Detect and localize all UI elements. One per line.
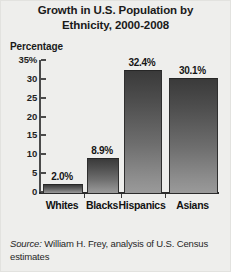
bar-value-label: 2.0% bbox=[31, 171, 93, 182]
plot-area: 05101520253035% 2.0%8.9%32.4%30.1% White… bbox=[1, 1, 231, 201]
y-tick-label: 30 bbox=[1, 73, 37, 84]
y-tick-mark bbox=[41, 97, 46, 99]
chart-figure: Growth in U.S. Population by Ethnicity, … bbox=[0, 0, 231, 272]
y-tick-mark bbox=[41, 78, 46, 80]
y-tick-label: 35% bbox=[1, 54, 37, 65]
bar-hispanics bbox=[124, 70, 162, 193]
y-tick-label: 20 bbox=[1, 111, 37, 122]
x-tick-mark bbox=[121, 194, 122, 198]
category-label: Asians bbox=[155, 199, 230, 211]
source-prefix: Source: bbox=[10, 238, 42, 249]
y-tick-label: 10 bbox=[1, 148, 37, 159]
y-tick-label: 25 bbox=[1, 92, 37, 103]
bar-asians bbox=[169, 78, 218, 193]
x-tick-mark bbox=[84, 194, 85, 198]
bar-blacks bbox=[87, 158, 119, 193]
y-tick-mark bbox=[41, 116, 46, 118]
bar-value-label: 30.1% bbox=[157, 65, 228, 76]
y-tick-mark bbox=[41, 134, 46, 136]
x-tick-mark bbox=[165, 194, 166, 198]
bar-whites bbox=[43, 184, 83, 193]
y-tick-label: 0 bbox=[1, 186, 37, 197]
y-tick-label: 15 bbox=[1, 129, 37, 140]
y-tick-mark bbox=[41, 59, 46, 61]
y-tick-mark bbox=[41, 153, 46, 155]
source-note: Source: William H. Frey, analysis of U.S… bbox=[10, 237, 226, 263]
bar-value-label: 8.9% bbox=[75, 145, 129, 156]
